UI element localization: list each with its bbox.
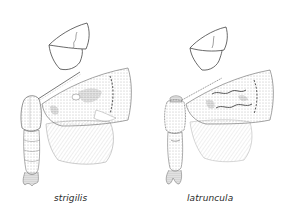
moth-body	[165, 96, 186, 184]
hindwing	[190, 120, 252, 162]
moth-body	[21, 96, 41, 186]
wing-outline-sketch	[49, 23, 89, 70]
species-label-latruncula: latruncula	[187, 193, 233, 203]
forewing	[42, 68, 131, 126]
moth-latruncula-drawing	[142, 0, 284, 211]
figure-latruncula: latruncula	[142, 0, 284, 211]
figure-strigilis: strigilis	[0, 0, 142, 211]
hindwing	[46, 121, 113, 165]
moth-strigilis-drawing	[0, 0, 142, 211]
forewing	[186, 70, 273, 124]
species-label-strigilis: strigilis	[54, 193, 87, 203]
illustration-plate: strigilis	[0, 0, 284, 211]
wing-outline-sketch	[190, 27, 227, 70]
